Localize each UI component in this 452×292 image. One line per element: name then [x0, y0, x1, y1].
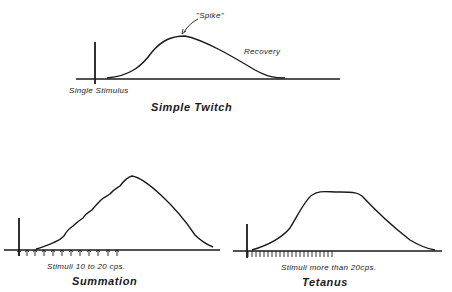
stimulus-arrows	[17, 250, 119, 256]
simple-twitch-title: Simple Twitch	[151, 101, 232, 113]
stimulus-tick-marks	[248, 251, 332, 257]
twitch-curve	[107, 36, 285, 78]
tetanus-curve	[252, 192, 435, 250]
tetanus-title: Tetanus	[302, 276, 348, 288]
tetanus-graph	[233, 192, 442, 258]
recovery-label: Recovery	[244, 47, 280, 56]
summation-curve	[36, 176, 213, 249]
tetanus-stimuli-label: Stimuli more than 20cps.	[281, 263, 376, 272]
summation-title: Summation	[72, 275, 137, 287]
muscle-contraction-diagram	[0, 0, 452, 292]
simple-twitch-graph	[76, 19, 340, 84]
summation-stimuli-label: Stimuli 10 to 20 cps.	[47, 262, 125, 271]
summation-graph	[4, 176, 220, 256]
single-stimulus-label: Single Stimulus	[69, 86, 129, 95]
spike-label: "Spike"	[196, 11, 224, 20]
spike-arrow	[184, 19, 198, 32]
